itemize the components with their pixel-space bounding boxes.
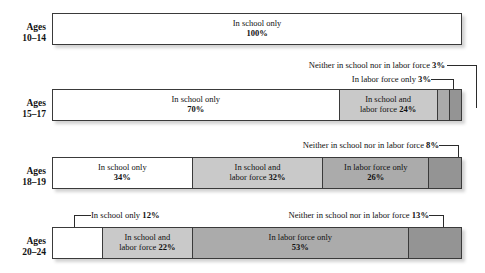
segment-in-school-and-labor-force: In school and labor force 24% [339,90,437,120]
segment-neither [408,228,461,258]
callout-text: Neither in school nor in labor force [288,210,411,220]
age-group-label-18-19: Ages 18–19 [2,166,46,188]
leader-line-in-school-only-20-24-horizontal [74,215,91,216]
segment-in-school-only: In school only 70% [53,90,339,120]
chart-row-ages-20-24: In school only 12% Neither in school nor… [0,198,485,273]
segment-in-school-only: In school only 34% [53,158,192,188]
callout-in-labor-force-only-15-17: In labor force only 3% [352,74,431,84]
bar-ages-18-19: In school only 34% In school and labor f… [52,157,462,189]
segment-in-labor-force-only [437,90,449,120]
callout-value: 12% [142,210,159,220]
segment-value: 70% [187,105,204,115]
segment-label-line2: labor force 24% [360,105,416,115]
age-group-label-15-17: Ages 15–17 [2,98,46,120]
leader-line-labor-only-15-17-horizontal [431,79,454,80]
segment-in-labor-force-only: In labor force only 53% [192,228,408,258]
age-label-line2: 18–19 [2,177,46,188]
segment-neither [428,158,461,188]
age-label-line2: 15–17 [2,109,46,120]
leader-line-neither-15-17-vertical [476,65,477,108]
callout-in-school-only-20-24: In school only 12% [91,210,160,220]
segment-in-school-and-labor-force: In school and labor force 32% [192,158,323,188]
segment-in-school-only [53,228,102,258]
age-label-line1: Ages [2,98,46,109]
segment-value: 34% [114,173,131,183]
callout-value: 8% [426,140,439,150]
segment-label-line2: labor force 22% [119,243,175,253]
age-label-line1: Ages [2,236,46,247]
segment-in-school-and-labor-force: In school and labor force 22% [102,228,192,258]
bar-ages-15-17: In school only 70% In school and labor f… [52,89,462,121]
segment-in-school-only: In school only 100% [53,14,461,44]
stacked-bar-chart: Ages 10–14 In school only 100% Neither i… [0,0,485,273]
segment-in-labor-force-only: In labor force only 26% [322,158,428,188]
age-group-label-20-24: Ages 20–24 [2,236,46,258]
callout-text: Neither in school nor in labor force [309,60,432,70]
segment-value: 100% [246,29,267,39]
segment-value: 24% [399,104,416,114]
chart-row-ages-18-19: Neither in school nor in labor force 8% … [0,128,485,198]
age-group-label-10-14: Ages 10–14 [2,22,46,44]
callout-text: In labor force only [352,74,418,84]
callout-value: 13% [412,210,429,220]
callout-value: 3% [432,60,445,70]
age-label-line2: 20–24 [2,247,46,258]
segment-value: 32% [269,172,286,182]
chart-row-ages-15-17: Neither in school nor in labor force 3% … [0,60,485,128]
segment-neither [449,90,461,120]
leader-line-neither-20-24-horizontal [429,215,444,216]
age-label-line1: Ages [2,166,46,177]
bar-ages-10-14: In school only 100% [52,13,462,45]
callout-neither-15-17: Neither in school nor in labor force 3% [309,60,445,70]
bar-ages-20-24: In school and labor force 22% In labor f… [52,227,462,259]
callout-neither-20-24: Neither in school nor in labor force 13% [288,210,429,220]
callout-text: In school only [91,210,142,220]
leader-line-neither-18-19-horizontal [439,145,459,146]
segment-value: 26% [367,173,384,183]
segment-label-line2: labor force 32% [229,173,285,183]
segment-value: 22% [158,242,175,252]
callout-neither-18-19: Neither in school nor in labor force 8% [303,140,439,150]
segment-value: 53% [292,243,309,253]
callout-value: 3% [418,74,431,84]
age-label-line2: 10–14 [2,33,46,44]
callout-text: Neither in school nor in labor force [303,140,426,150]
age-label-line1: Ages [2,22,46,33]
leader-line-neither-15-17-horizontal [447,65,477,66]
chart-row-ages-10-14: Ages 10–14 In school only 100% [0,0,485,60]
